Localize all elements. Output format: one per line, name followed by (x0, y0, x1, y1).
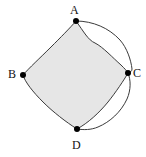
geometry-figure: A B C D (0, 0, 146, 157)
figure-canvas (0, 0, 146, 157)
vertex-label-c: C (133, 67, 141, 79)
vertex-point-a (73, 18, 79, 24)
vertex-label-a: A (70, 4, 79, 16)
vertex-label-b: B (8, 68, 16, 80)
shaded-region (23, 21, 128, 129)
vertex-point-b (20, 72, 26, 78)
vertex-label-d: D (72, 139, 81, 151)
vertex-point-d (74, 126, 80, 132)
vertex-point-c (125, 70, 131, 76)
